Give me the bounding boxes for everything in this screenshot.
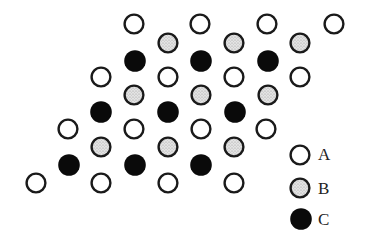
atom-c-circle	[90, 101, 112, 123]
atom-b-circle	[125, 86, 144, 105]
atom-c-circle	[224, 101, 246, 123]
atom-a-circle	[191, 15, 210, 34]
atom-a-circle	[325, 15, 344, 34]
atom-c-circle	[190, 50, 212, 72]
atom-a-circle	[291, 68, 310, 87]
circle-lattice	[27, 15, 344, 193]
atom-a-circle	[27, 174, 46, 193]
legend-c-circle	[290, 208, 312, 230]
atom-a-circle	[225, 174, 244, 193]
atom-c-circle	[157, 101, 179, 123]
atom-a-circle	[92, 174, 111, 193]
legend-b-circle	[291, 179, 310, 198]
legend-a-circle	[291, 146, 310, 165]
atom-a-circle	[125, 15, 144, 34]
atom-b-circle	[192, 86, 211, 105]
atom-a-circle	[258, 15, 277, 34]
atom-c-circle	[124, 154, 146, 176]
legend-label-c: C	[318, 211, 329, 228]
atom-c-circle	[257, 50, 279, 72]
layer-stacking-diagram	[0, 0, 365, 243]
atom-b-circle	[159, 138, 178, 157]
atom-c-circle	[124, 50, 146, 72]
atom-a-circle	[257, 120, 276, 139]
legend-label-a: A	[318, 146, 330, 163]
atom-b-circle	[225, 138, 244, 157]
atom-a-circle	[59, 120, 78, 139]
atom-a-circle	[225, 68, 244, 87]
atom-c-circle	[58, 154, 80, 176]
legend	[290, 146, 312, 230]
atom-b-circle	[259, 86, 278, 105]
atom-a-circle	[159, 174, 178, 193]
atom-b-circle	[92, 138, 111, 157]
atom-b-circle	[225, 34, 244, 53]
atom-b-circle	[291, 34, 310, 53]
atom-c-circle	[190, 154, 212, 176]
atom-a-circle	[192, 120, 211, 139]
atom-a-circle	[92, 68, 111, 87]
atom-a-circle	[159, 68, 178, 87]
atom-b-circle	[159, 34, 178, 53]
atom-a-circle	[125, 120, 144, 139]
legend-label-b: B	[318, 180, 329, 197]
